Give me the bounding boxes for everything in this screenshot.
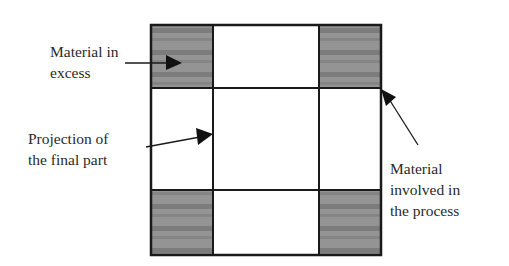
- label-line: involved in: [390, 179, 460, 200]
- label-line: Projection of: [28, 128, 109, 149]
- corner-cell-bottom-right: [319, 190, 381, 255]
- label-material-involved: Material involved in the process: [390, 158, 460, 221]
- label-line: Material in: [50, 41, 118, 62]
- label-material-in-excess: Material in excess: [50, 41, 118, 83]
- label-line: excess: [50, 62, 118, 83]
- label-projection-final-part: Projection of the final part: [28, 128, 109, 170]
- corner-cell-top-left: [151, 25, 213, 88]
- arrow-projection-final-part: [146, 128, 213, 147]
- corner-cell-bottom-left: [151, 190, 213, 255]
- label-line: the process: [390, 200, 460, 221]
- corner-cell-top-right: [319, 25, 381, 88]
- label-line: Material: [390, 158, 460, 179]
- label-line: the final part: [28, 149, 109, 170]
- arrow-material-involved: [381, 89, 418, 145]
